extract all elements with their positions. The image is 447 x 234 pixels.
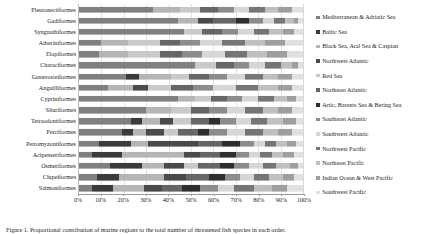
legend-label: Mediterranean & Adriatic Sea xyxy=(322,14,395,20)
bar-segment xyxy=(236,85,258,91)
legend-item[interactable]: Northwest Atlantic xyxy=(316,54,447,69)
x-tick-label: 100% xyxy=(297,197,311,203)
legend-item[interactable]: Northeast Atlantic xyxy=(316,83,447,98)
legend-item[interactable]: Southeast Atlantic xyxy=(316,112,447,127)
bar-segment xyxy=(191,118,209,124)
stacked-bar xyxy=(79,18,303,24)
x-tick-mark xyxy=(236,194,237,196)
bar-segment xyxy=(247,51,267,57)
y-axis-label: Atheriniformes xyxy=(39,40,76,46)
bar-segment xyxy=(254,174,270,180)
bar-segment xyxy=(191,107,209,113)
legend-swatch-icon xyxy=(316,147,320,151)
legend-item[interactable]: Baltic Sea xyxy=(316,25,447,40)
bar-segment xyxy=(128,40,159,46)
bar-segment xyxy=(254,140,265,146)
bar-segment xyxy=(227,96,243,102)
bar-segment xyxy=(211,96,227,102)
legend-swatch-icon xyxy=(316,74,320,78)
stacked-bar xyxy=(79,85,303,91)
bar-segment xyxy=(131,118,142,124)
bar-segment xyxy=(113,185,144,191)
stacked-bar xyxy=(79,6,303,12)
bar-segment xyxy=(245,107,263,113)
x-tick-mark xyxy=(78,194,79,196)
bar-segment xyxy=(292,6,303,12)
bar-segment xyxy=(218,6,234,12)
chart-legend: Mediterranean & Adriatic SeaBaltic SeaBl… xyxy=(316,10,447,206)
bar-segment xyxy=(79,140,99,146)
bar-row: Pleuronectiformes xyxy=(79,4,303,15)
bar-row: Cypriniformes xyxy=(79,93,303,104)
legend-swatch-icon xyxy=(316,118,320,122)
bar-segment xyxy=(276,163,289,169)
bar-segment xyxy=(184,163,197,169)
bar-segment xyxy=(92,152,121,158)
bar-segment xyxy=(198,18,214,24)
bar-segment xyxy=(131,140,149,146)
bar-segment xyxy=(189,73,209,79)
bar-row: Characiformes xyxy=(79,60,303,71)
bar-segment xyxy=(263,18,274,24)
legend-item[interactable]: Indian Ocean & West Pacific xyxy=(316,171,447,186)
bar-segment xyxy=(195,96,211,102)
legend-item[interactable]: Artic, Barents Sea & Bering Sea xyxy=(316,98,447,113)
legend-swatch-icon xyxy=(316,59,320,63)
legend-item[interactable]: Mediterranean & Adriatic Sea xyxy=(316,10,447,25)
legend-item[interactable]: Northeast Pacific xyxy=(316,156,447,171)
bar-segment xyxy=(122,152,185,158)
bar-segment xyxy=(249,152,260,158)
x-tick-label: 10% xyxy=(95,197,106,203)
bar-segment xyxy=(139,73,170,79)
bar-segment xyxy=(146,129,164,135)
stacked-bar xyxy=(79,96,303,102)
bar-row: Anguilliformes xyxy=(79,82,303,93)
bar-segment xyxy=(234,6,250,12)
bar-segment xyxy=(186,174,208,180)
legend-item[interactable]: Southwest Atlantic xyxy=(316,127,447,142)
bar-segment xyxy=(148,85,170,91)
legend-item[interactable]: Red Sea xyxy=(316,68,447,83)
bar-segment xyxy=(236,152,249,158)
bar-segment xyxy=(180,40,200,46)
legend-item[interactable]: Northwest Pacific xyxy=(316,141,447,156)
y-axis-label: Gasterosteiformes xyxy=(32,74,76,80)
bar-segment xyxy=(283,152,294,158)
stacked-bar xyxy=(79,107,303,113)
bar-segment xyxy=(265,40,285,46)
stacked-bar xyxy=(79,118,303,124)
bar-segment xyxy=(263,73,279,79)
bar-segment xyxy=(79,73,126,79)
bar-segment xyxy=(242,96,258,102)
bar-segment xyxy=(285,40,303,46)
bar-segment xyxy=(222,40,244,46)
legend-label: Artic, Barents Sea & Bering Sea xyxy=(322,102,401,108)
legend-swatch-icon xyxy=(316,103,320,107)
y-axis-label: Siluriformes xyxy=(46,107,76,113)
y-axis-label: Cypriniformes xyxy=(40,96,76,102)
bar-segment xyxy=(79,107,146,113)
bar-segment xyxy=(184,152,200,158)
x-tick-label: 50% xyxy=(185,197,196,203)
y-axis-label: Anguilliformes xyxy=(39,85,76,91)
bar-segment xyxy=(79,6,153,12)
bar-segment xyxy=(200,40,222,46)
bar-row: Syngnathiformes xyxy=(79,26,303,37)
legend-item[interactable]: Southwest Pacific xyxy=(316,185,447,200)
stacked-bar xyxy=(79,174,303,180)
bar-segment xyxy=(178,18,198,24)
bar-segment xyxy=(294,174,303,180)
stacked-bar xyxy=(79,51,303,57)
bar-segment xyxy=(269,29,282,35)
bar-segment xyxy=(79,85,108,91)
bar-segment xyxy=(178,96,196,102)
legend-item[interactable]: Black Sea, Aral Sea & Caspian xyxy=(316,39,447,54)
bar-segment xyxy=(245,40,265,46)
y-axis-label: Gadiformes xyxy=(47,18,76,24)
y-axis-label: Characiformes xyxy=(40,62,76,68)
legend-label: Northeast Pacific xyxy=(322,160,364,166)
bar-segment xyxy=(290,163,299,169)
bar-segment xyxy=(294,152,303,158)
legend-swatch-icon xyxy=(316,191,320,195)
stacked-bar xyxy=(79,152,303,158)
